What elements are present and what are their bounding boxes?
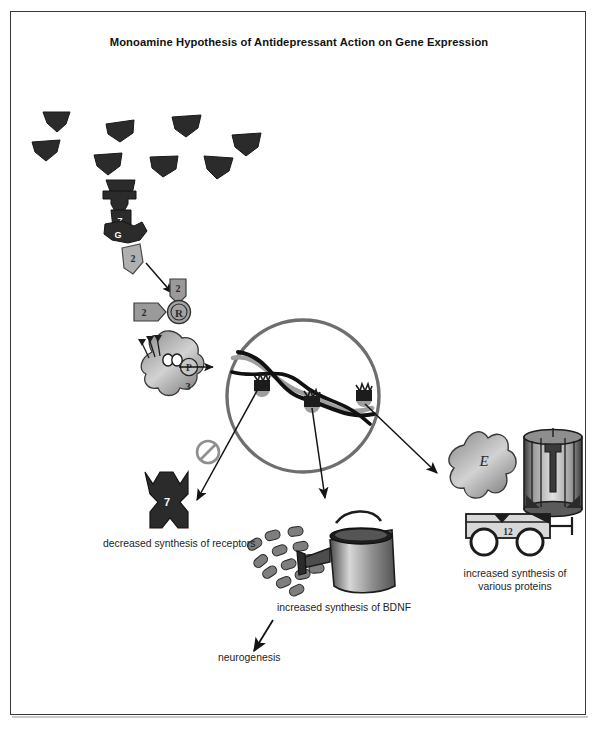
- inhibition-symbol: [197, 441, 219, 463]
- g-protein-label: G: [114, 230, 121, 240]
- label-decreased-receptors: decreased synthesis of receptors: [103, 538, 268, 551]
- second-messenger-label: 2: [131, 253, 136, 264]
- transcription-factor-label: 3: [185, 380, 191, 392]
- dna-helix: [232, 352, 374, 424]
- neurotransmitter-icon: [232, 133, 261, 156]
- second-messenger-group: 2: [122, 244, 172, 293]
- nucleus-group: [227, 320, 379, 472]
- neurotransmitter-icon: [94, 153, 122, 175]
- figure-root: Monoamine Hypothesis of Antidepressant A…: [0, 0, 598, 732]
- neurotransmitter-icon: [150, 156, 178, 177]
- phosphate-label: P: [186, 363, 192, 373]
- kinase-complex-group: 2 2 R: [134, 279, 191, 324]
- neurotransmitter-cluster: [32, 112, 261, 198]
- label-neurogenesis: neurogenesis: [218, 652, 328, 665]
- receptor-seven-group: 7 G: [103, 191, 147, 243]
- ion-channel-group: [524, 428, 582, 517]
- transporter-label: 12: [503, 527, 513, 537]
- neurotransmitter-icon: [204, 156, 233, 179]
- enzyme-2-top-label: 2: [176, 283, 181, 294]
- neurotransmitter-icon: [172, 115, 201, 137]
- arrow-to-proteins: [365, 404, 437, 473]
- enzyme-2-left-icon: [134, 303, 166, 321]
- diagram-canvas: 7 G 2 2 2 R: [0, 0, 598, 732]
- g-protein-icon: [104, 221, 147, 243]
- label-increased-bdnf: increased synthesis of BDNF: [277, 602, 437, 615]
- neurogenesis-arrow: [254, 620, 273, 651]
- neurotransmitter-icon: [106, 120, 134, 142]
- downregulated-receptor-group: 7: [145, 472, 188, 528]
- watering-can-icon: [297, 511, 395, 592]
- label-increased-proteins: increased synthesis of various proteins: [440, 568, 590, 593]
- receptor-7-down-label: 7: [164, 496, 170, 508]
- enzyme-e-label: E: [478, 453, 488, 469]
- enzyme-2-left-label: 2: [142, 307, 147, 318]
- neurotransmitter-icon: [32, 140, 60, 161]
- protein-enzyme-group: E: [449, 432, 516, 498]
- neurotransmitter-icon: [43, 112, 70, 132]
- arrow-to-bdnf: [312, 408, 325, 498]
- transporter-group: 12: [466, 514, 572, 555]
- kinase-r-label: R: [175, 307, 184, 319]
- transcription-factor-group: P 3: [138, 331, 213, 396]
